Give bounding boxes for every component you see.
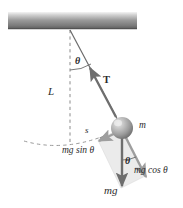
mass-label: m — [139, 120, 146, 130]
length-label: L — [48, 85, 54, 97]
tangential-component-label: mg sin θ — [62, 145, 94, 155]
theta-bob-label: θ — [125, 155, 130, 166]
radial-component-label: mg cos θ — [134, 165, 168, 175]
diagram-canvas — [0, 0, 183, 208]
weight-label: mg — [104, 184, 117, 196]
pendulum-figure: L θ T m s mg sin θ θ mg cos θ mg — [0, 0, 183, 208]
ceiling-support — [8, 12, 137, 29]
pendulum-bob — [111, 117, 133, 139]
ceiling-support-edge — [8, 28, 137, 29]
tension-label: T — [103, 74, 110, 85]
arc-length-label: s — [85, 125, 89, 135]
bob-highlight — [114, 120, 122, 126]
theta-pivot-label: θ — [75, 55, 80, 66]
